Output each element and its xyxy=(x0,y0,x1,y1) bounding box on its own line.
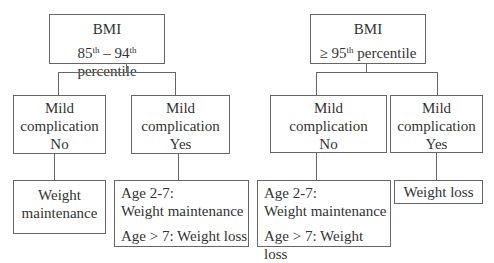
left-yes-outcome-connector xyxy=(178,154,179,180)
right-no-outcome-connector xyxy=(316,153,317,180)
right-yes-connector xyxy=(437,72,438,95)
label: complication xyxy=(14,117,105,135)
right-branch-connector xyxy=(316,72,437,73)
label: Weight xyxy=(14,186,105,204)
label: Yes xyxy=(132,135,229,153)
label: maintenance xyxy=(14,204,105,222)
right-root-connector xyxy=(366,64,367,72)
right-branch-yes-box: Mild complication Yes xyxy=(390,95,483,153)
label: Age 2-7: xyxy=(264,184,390,202)
right-root-title: BMI xyxy=(311,20,425,38)
right-outcome-yes-box: Weight loss xyxy=(394,180,483,204)
label: Mild xyxy=(132,99,229,117)
left-no-connector xyxy=(58,72,59,95)
label: Age 2-7: xyxy=(121,184,248,202)
label: Age > 7: Weight loss xyxy=(121,227,248,245)
label: complication xyxy=(391,117,482,135)
right-outcome-no-box: Age 2-7: Weight maintenance Age > 7: Wei… xyxy=(257,180,391,247)
right-root-box: BMI ≥ 95th percentile xyxy=(310,14,426,64)
left-root-connector xyxy=(126,64,127,72)
left-no-outcome-connector xyxy=(54,154,55,180)
left-root-box: BMI 85th – 94th percentile xyxy=(49,14,165,64)
left-branch-connector xyxy=(58,72,175,73)
left-outcome-yes-box: Age 2-7: Weight maintenance Age > 7: Wei… xyxy=(114,180,249,247)
label: Mild xyxy=(391,99,482,117)
label: Yes xyxy=(391,135,482,153)
left-yes-connector xyxy=(175,72,176,95)
label: No xyxy=(14,135,105,153)
label: Mild xyxy=(14,99,105,117)
right-no-connector xyxy=(316,72,317,95)
label: complication xyxy=(132,117,229,135)
label: Mild xyxy=(271,99,386,117)
label: Weight loss xyxy=(395,183,482,201)
left-branch-yes-box: Mild complication Yes xyxy=(131,95,230,154)
label: Weight maintenance xyxy=(264,202,390,220)
label: No xyxy=(271,135,386,153)
right-branch-no-box: Mild complication No xyxy=(270,95,387,153)
right-root-range: ≥ 95th percentile xyxy=(311,44,425,62)
label: complication xyxy=(271,117,386,135)
left-branch-no-box: Mild complication No xyxy=(13,95,106,154)
left-outcome-no-box: Weight maintenance xyxy=(13,180,106,234)
label: Age > 7: Weight loss xyxy=(264,227,390,263)
left-root-range: 85th – 94th percentile xyxy=(50,44,164,80)
right-yes-outcome-connector xyxy=(436,153,437,180)
left-root-title: BMI xyxy=(50,20,164,38)
label: Weight maintenance xyxy=(121,202,248,220)
